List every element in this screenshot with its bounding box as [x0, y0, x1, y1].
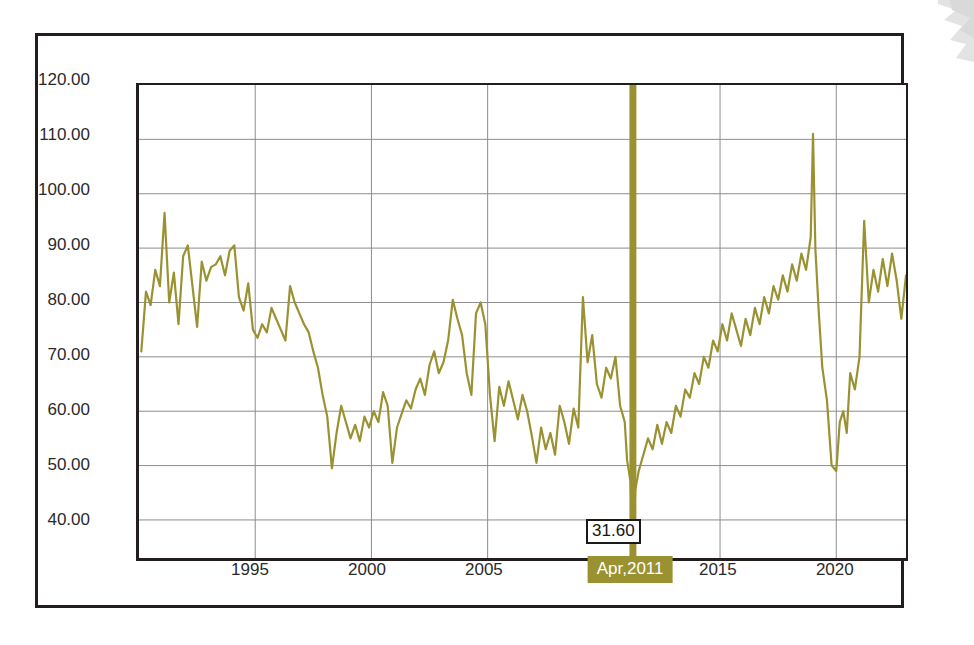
plot-area — [136, 83, 908, 561]
y-axis-tick-label: 120.00 — [38, 70, 90, 90]
x-axis-tick-label: 1995 — [231, 560, 269, 580]
x-axis-tick-labels: 199520002005Apr,201120152020 — [0, 560, 974, 600]
x-axis-tick-label: 2020 — [816, 560, 854, 580]
gridlines-vertical — [255, 85, 836, 558]
x-axis-marker-label: Apr,2011 — [588, 556, 673, 583]
y-axis-tick-labels: 120.00110.00100.0090.0080.0070.0060.0050… — [0, 33, 90, 608]
y-axis-tick-label: 60.00 — [47, 400, 90, 420]
y-axis-tick-label: 50.00 — [47, 455, 90, 475]
y-axis-tick-label: 40.00 — [47, 510, 90, 530]
corner-zigzag-decoration-icon — [914, 0, 974, 62]
marker-value-box: 31.60 — [586, 519, 641, 544]
y-axis-tick-label: 110.00 — [39, 125, 90, 145]
x-axis-tick-label: 2005 — [465, 560, 503, 580]
x-axis-tick-label: 2015 — [699, 560, 737, 580]
series-line-1 — [141, 134, 906, 558]
x-axis-tick-label: 2000 — [348, 560, 386, 580]
y-axis-tick-label: 80.00 — [47, 290, 90, 310]
y-axis-tick-label: 100.00 — [38, 180, 90, 200]
chart-frame — [35, 33, 904, 608]
plot-svg — [139, 85, 906, 558]
y-axis-tick-label: 70.00 — [47, 345, 90, 365]
y-axis-tick-label: 90.00 — [47, 235, 90, 255]
